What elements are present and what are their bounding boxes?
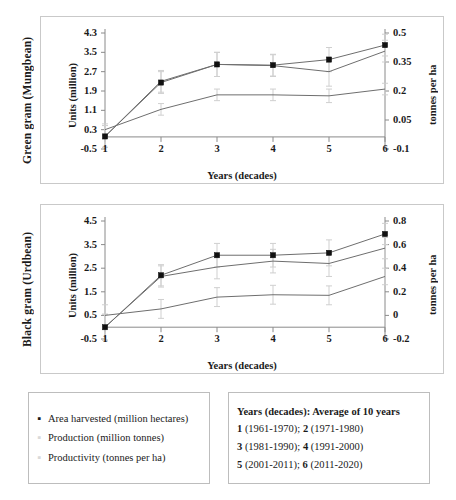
decade-range: (1981-1990); xyxy=(245,441,303,452)
series-legend-box: ▪ Area harvested (million hectares) ▪ Pr… xyxy=(28,392,210,484)
y-tick-label: 1.1 xyxy=(41,105,97,116)
plot-frame-green-gram: Units (million) tonnes per ha Years (dec… xyxy=(40,16,444,184)
x-tick-label: 5 xyxy=(326,144,331,155)
series-marker-icon: ▪ xyxy=(35,432,44,443)
panel-title-black-gram: Black gram (Urdbean) xyxy=(18,198,36,380)
decade-range: (2001-2011); xyxy=(245,459,303,470)
decade-range: (1961-1970); xyxy=(245,423,303,434)
x-tick-label: 5 xyxy=(326,334,331,345)
x-tick-label: 6 xyxy=(382,334,387,345)
x-tick-label: 3 xyxy=(214,144,219,155)
y-tick-label: 2.7 xyxy=(41,66,97,77)
legend-row: ▪ Area harvested (million hectares) ▪ Pr… xyxy=(0,388,456,496)
y2-tick-label: 0.2 xyxy=(393,86,406,97)
years-key-heading: Years (decades): Average of 10 years xyxy=(229,403,429,421)
y2-tick-label: 0.4 xyxy=(393,263,406,274)
y-tick-label: 1.9 xyxy=(41,86,97,97)
y-tick-label: 4.5 xyxy=(41,216,97,227)
x-tick-label: 4 xyxy=(270,144,275,155)
y-tick-label: -0.5 xyxy=(41,334,97,345)
decade-number: 1 xyxy=(237,423,242,434)
decade-range: (1971-1980) xyxy=(311,423,364,434)
series-marker-icon: ▪ xyxy=(35,413,44,424)
y2-tick-label: 0.5 xyxy=(393,28,406,39)
years-key-row: 5 (2001-2011); 6 (2011-2020) xyxy=(229,456,429,474)
decade-number: 4 xyxy=(303,441,308,452)
decade-range: (1991-2000) xyxy=(311,441,364,452)
decade-number: 6 xyxy=(303,459,308,470)
y2-tick-label: 0.2 xyxy=(393,287,406,298)
legend-label: Production (million tonnes) xyxy=(48,432,164,444)
chart-panel-black-gram: Black gram (Urdbean) Units (million) ton… xyxy=(0,198,456,380)
y-tick-label: 3.5 xyxy=(41,47,97,58)
x-tick-label: 2 xyxy=(158,144,163,155)
x-tick-label: 1 xyxy=(102,334,107,345)
decade-number: 2 xyxy=(303,423,308,434)
x-tick-label: 6 xyxy=(382,144,387,155)
figure-root: Green gram (Mungbean) Units (million) to… xyxy=(0,0,456,500)
y2-tick-label: 0.8 xyxy=(393,216,406,227)
x-tick-label: 1 xyxy=(102,144,107,155)
x-tick-label: 3 xyxy=(214,334,219,345)
panel-title-green-gram: Green gram (Mungbean) xyxy=(18,10,36,190)
legend-label: Productivity (tonnes per ha) xyxy=(48,452,166,464)
decade-range: (2011-2020) xyxy=(310,459,362,470)
y-tick-label: 3.5 xyxy=(41,239,97,250)
years-key-box: Years (decades): Average of 10 years 1 (… xyxy=(228,392,430,484)
y2-tick-label: -0.2 xyxy=(393,334,410,345)
legend-item: ▪ Production (million tonnes) xyxy=(29,428,209,448)
decade-number: 5 xyxy=(237,459,242,470)
decade-number: 3 xyxy=(237,441,242,452)
x-tick-label: 2 xyxy=(158,334,163,345)
y2-tick-label: 0.35 xyxy=(393,57,411,68)
x-tick-label: 4 xyxy=(270,334,275,345)
y2-tick-label: 0.6 xyxy=(393,239,406,250)
y2-tick-label: -0.1 xyxy=(393,144,410,155)
years-key-row: 1 (1961-1970); 2 (1971-1980) xyxy=(229,420,429,438)
y-tick-label: 0.5 xyxy=(41,310,97,321)
legend-item: ▪ Productivity (tonnes per ha) xyxy=(29,448,209,468)
y-tick-label: 0.3 xyxy=(41,124,97,135)
y2-tick-label: 0 xyxy=(393,310,398,321)
y2-tick-label: 0.05 xyxy=(393,115,411,126)
plot-area-green-gram xyxy=(41,17,445,185)
legend-item: ▪ Area harvested (million hectares) xyxy=(29,409,209,429)
plot-area-black-gram xyxy=(41,205,445,375)
chart-panel-green-gram: Green gram (Mungbean) Units (million) to… xyxy=(0,10,456,190)
years-key-row: 3 (1981-1990); 4 (1991-2000) xyxy=(229,438,429,456)
y-tick-label: 1.5 xyxy=(41,287,97,298)
y-tick-label: 2.5 xyxy=(41,263,97,274)
y-tick-label: -0.5 xyxy=(41,144,97,155)
plot-frame-black-gram: Units (million) tonnes per ha Years (dec… xyxy=(40,204,444,374)
y-tick-label: 4.3 xyxy=(41,28,97,39)
series-marker-icon: ▪ xyxy=(35,452,44,463)
legend-label: Area harvested (million hectares) xyxy=(48,413,188,425)
